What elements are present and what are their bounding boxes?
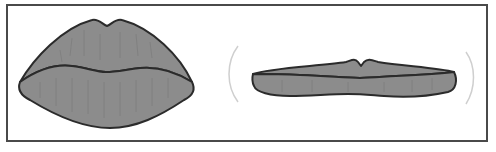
left-guide-arc: [229, 46, 238, 102]
right-guide-arc: [466, 52, 474, 104]
thin-lips-illustration: [229, 46, 474, 104]
full-lower-lip: [19, 66, 193, 128]
lips-diagram: [0, 0, 496, 152]
full-lips-illustration: [19, 20, 193, 128]
